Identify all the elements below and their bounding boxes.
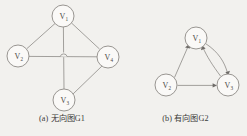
edge-v2-to-v1 (175, 46, 189, 77)
node-v1-subscript: 1 (65, 16, 68, 22)
panel-directed-graph: V 1 V 2 V 3 (b) 有向图G2 (124, 0, 247, 136)
edge-v1-v4 (72, 23, 100, 49)
caption-undirected-graph: (a) 无向图G1 (0, 113, 124, 124)
node-v2-subscript: 2 (20, 56, 23, 62)
edge-v1-v2 (27, 24, 55, 49)
edge-crossing-hop-icon (60, 54, 67, 57)
node-v1[interactable]: V 1 (52, 5, 74, 27)
node-v4-subscript: 4 (110, 57, 113, 63)
graph-g2-canvas: V 1 V 2 V 3 (124, 0, 247, 112)
node-v1[interactable]: V 1 (185, 27, 207, 49)
figure-root: V 1 V 2 V 4 V 3 ( (0, 0, 247, 136)
graph-g1-canvas: V 1 V 2 V 4 V 3 (0, 0, 124, 112)
edge-v3-to-v1-curved (203, 48, 221, 77)
arrowhead-v2-to-v3 (213, 83, 217, 87)
g1-nodes: V 1 V 2 V 4 V 3 (7, 5, 119, 111)
node-v2-subscript: 2 (168, 85, 171, 91)
node-v4[interactable]: V 4 (97, 46, 119, 68)
panel-undirected-graph: V 1 V 2 V 4 V 3 ( (0, 0, 124, 136)
node-v3[interactable]: V 3 (53, 89, 75, 111)
node-v3-subscript: 3 (66, 100, 69, 106)
node-v2[interactable]: V 2 (155, 74, 177, 96)
node-v3[interactable]: V 3 (217, 74, 239, 96)
caption-directed-graph: (b) 有向图G2 (124, 113, 247, 124)
g1-edges (27, 23, 102, 94)
node-v2[interactable]: V 2 (7, 45, 29, 67)
node-v1-subscript: 1 (198, 38, 201, 44)
edge-v3-v4 (73, 66, 102, 94)
node-v3-subscript: 3 (230, 85, 233, 91)
